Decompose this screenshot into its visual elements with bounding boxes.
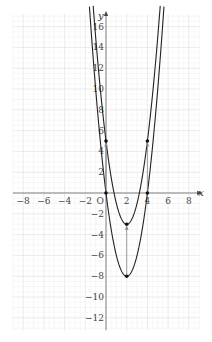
y-tick-label: −12 bbox=[85, 313, 104, 323]
x-tick-label: 8 bbox=[186, 196, 192, 206]
x-axis-label: x bbox=[198, 187, 204, 198]
data-point bbox=[125, 274, 129, 278]
data-point bbox=[146, 191, 150, 195]
y-axis-arrow-icon bbox=[104, 11, 108, 16]
x-tick-label: 2 bbox=[124, 196, 130, 206]
y-tick-label: 10 bbox=[93, 84, 105, 94]
x-tick-label: 6 bbox=[165, 196, 171, 206]
parabola-chart: xy −8−6−4−22468O−12−10−8−6−4−22468101214… bbox=[0, 0, 212, 342]
y-tick-label: −8 bbox=[91, 271, 105, 281]
data-point bbox=[146, 139, 150, 143]
x-tick-label: −6 bbox=[37, 196, 51, 206]
y-axis-label: y bbox=[97, 10, 104, 21]
y-tick-label: 14 bbox=[93, 42, 105, 52]
data-point bbox=[104, 139, 108, 143]
y-tick-label: −6 bbox=[91, 250, 105, 260]
y-tick-label: −2 bbox=[91, 209, 104, 219]
x-tick-label: −8 bbox=[17, 196, 31, 206]
y-tick-label: −10 bbox=[85, 292, 104, 302]
y-tick-label: −4 bbox=[91, 230, 105, 240]
data-point bbox=[104, 191, 108, 195]
data-point bbox=[125, 222, 129, 226]
x-tick-label: −2 bbox=[79, 196, 92, 206]
x-tick-label: −4 bbox=[58, 196, 72, 206]
origin-label: O bbox=[97, 196, 104, 206]
y-tick-label: 8 bbox=[98, 105, 104, 115]
